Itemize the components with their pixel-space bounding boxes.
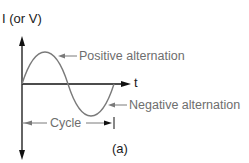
x-axis <box>22 81 131 87</box>
y-axis-label: I (or V) <box>2 12 42 25</box>
positive-alternation-pointer <box>58 54 77 59</box>
cycle-label: Cycle <box>50 117 81 130</box>
negative-alternation-label: Negative alternation <box>129 99 240 112</box>
y-axis-down-arrow-icon <box>19 150 25 160</box>
negative-alternation-pointer <box>108 103 127 108</box>
y-axis <box>19 36 25 160</box>
cycle-right-arrow-icon <box>104 121 112 126</box>
negative-pointer-arrow-icon <box>108 103 115 108</box>
y-axis-up-arrow-icon <box>19 36 25 46</box>
positive-pointer-arrow-icon <box>58 54 65 59</box>
figure-caption: (a) <box>112 142 128 155</box>
x-axis-label: t <box>134 76 138 89</box>
x-axis-arrow-icon <box>121 81 131 87</box>
positive-alternation-label: Positive alternation <box>79 50 185 63</box>
cycle-left-arrow-icon <box>24 121 32 126</box>
